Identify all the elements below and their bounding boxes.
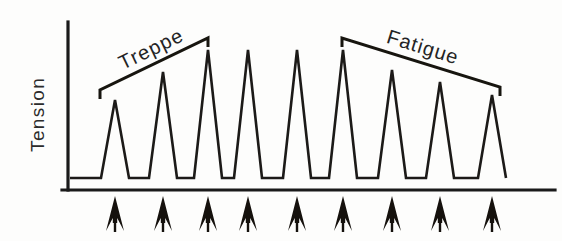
up-arrow-icon	[239, 196, 257, 232]
figure-canvas: Tension Treppe Fatigue	[0, 0, 562, 241]
twitch-figure: Tension Treppe Fatigue	[0, 0, 562, 241]
stimulus-marker-group	[106, 196, 501, 232]
up-arrow-icon	[431, 196, 449, 232]
up-arrow-icon	[199, 196, 217, 232]
up-arrow-icon	[483, 196, 501, 232]
y-axis-title: Tension	[27, 77, 48, 152]
up-arrow-icon	[154, 196, 172, 232]
up-arrow-icon	[288, 196, 306, 232]
up-arrow-icon	[334, 196, 352, 232]
up-arrow-icon	[383, 196, 401, 232]
up-arrow-icon	[106, 196, 124, 232]
